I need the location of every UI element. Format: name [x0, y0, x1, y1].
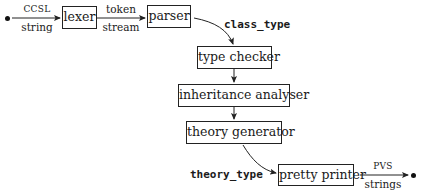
- edge-label-token: token: [100, 3, 142, 15]
- edge-label-output-bottom: strings: [360, 178, 406, 190]
- node-pretty-printer: pretty printer: [278, 164, 354, 186]
- pipeline-diagram: CCSL string token stream class_type theo…: [0, 0, 425, 195]
- end-dot: [411, 173, 416, 178]
- edge-label-theory-type: theory_type: [190, 168, 263, 181]
- node-type-checker: type checker: [197, 46, 272, 69]
- edge-label-input-bottom: string: [17, 21, 57, 33]
- node-lexer: lexer: [62, 6, 97, 29]
- edge-label-class-type: class_type: [224, 18, 290, 31]
- edge-label-input-top: CCSL: [22, 3, 52, 15]
- node-parser: parser: [147, 5, 191, 28]
- edge-label-stream: stream: [98, 21, 144, 33]
- start-dot: [5, 16, 10, 21]
- edge-label-output-top: PVS: [368, 160, 398, 172]
- node-inheritance-analyser: inheritance analyser: [178, 84, 290, 107]
- node-theory-generator: theory generator: [186, 121, 282, 144]
